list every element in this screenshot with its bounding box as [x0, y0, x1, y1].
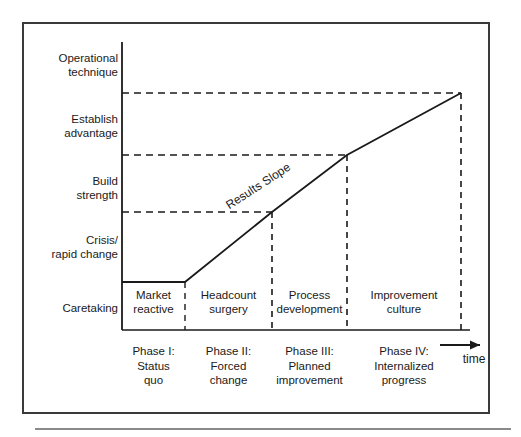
- y-label-line-1: Build: [22, 175, 118, 189]
- y-axis-label-group: Operational technique Establish advantag…: [18, 0, 118, 437]
- y-label-line-2: strength: [22, 189, 118, 203]
- y-label-line-2: advantage: [22, 127, 118, 141]
- y-label-crisis-rapid-change: Crisis/ rapid change: [22, 234, 118, 261]
- y-label-operational-technique: Operational technique: [22, 52, 118, 79]
- phase-caption-1: Phase I: Status quo: [122, 344, 185, 388]
- phase-caption-line-1: Phase I:: [122, 344, 185, 359]
- phase-caption-line-3: progress: [347, 373, 461, 388]
- y-label-line-1: Operational: [22, 52, 118, 66]
- phase-caption-line-2: Forced: [185, 359, 272, 374]
- phase-cell-line-2: development: [272, 302, 347, 316]
- phase-cell-line-1: Headcount: [185, 288, 272, 302]
- y-label-line-1: Caretaking: [22, 302, 118, 316]
- phase-cell-process-development: Process development: [272, 288, 347, 328]
- phase-cell-line-1: Process: [272, 288, 347, 302]
- phase-cell-line-1: Improvement: [347, 288, 461, 302]
- phase-cell-market-reactive: Market reactive: [122, 288, 185, 328]
- phase-caption-line-1: Phase III:: [272, 344, 347, 359]
- phase-caption-3: Phase III: Planned improvement: [272, 344, 347, 388]
- phase-caption-2: Phase II: Forced change: [185, 344, 272, 388]
- phase-caption-line-1: Phase II:: [185, 344, 272, 359]
- phase-caption-line-3: change: [185, 373, 272, 388]
- phase-cell-headcount-surgery: Headcount surgery: [185, 288, 272, 328]
- phase-caption-line-2: Planned: [272, 359, 347, 374]
- y-label-line-2: rapid change: [22, 248, 118, 262]
- y-label-line-2: technique: [22, 66, 118, 80]
- time-axis-label: time: [463, 352, 486, 366]
- y-label-line-1: Crisis/: [22, 234, 118, 248]
- phase-caption-line-2: Internalized: [347, 359, 461, 374]
- y-label-build-strength: Build strength: [22, 175, 118, 202]
- phase-cell-line-2: surgery: [185, 302, 272, 316]
- phase-caption-4: Phase IV: Internalized progress: [347, 344, 461, 388]
- phase-cell-improvement-culture: Improvement culture: [347, 288, 461, 328]
- phase-caption-line-3: quo: [122, 373, 185, 388]
- phase-caption-line-1: Phase IV:: [347, 344, 461, 359]
- phase-caption-line-2: Status: [122, 359, 185, 374]
- y-label-caretaking: Caretaking: [22, 302, 118, 316]
- y-label-line-1: Establish: [22, 113, 118, 127]
- phase-cell-line-2: reactive: [122, 302, 185, 316]
- bottom-divider-rule: [35, 428, 511, 430]
- phase-cell-line-2: culture: [347, 302, 461, 316]
- phase-cell-line-1: Market: [122, 288, 185, 302]
- y-label-establish-advantage: Establish advantage: [22, 113, 118, 140]
- phase-caption-line-3: improvement: [272, 373, 347, 388]
